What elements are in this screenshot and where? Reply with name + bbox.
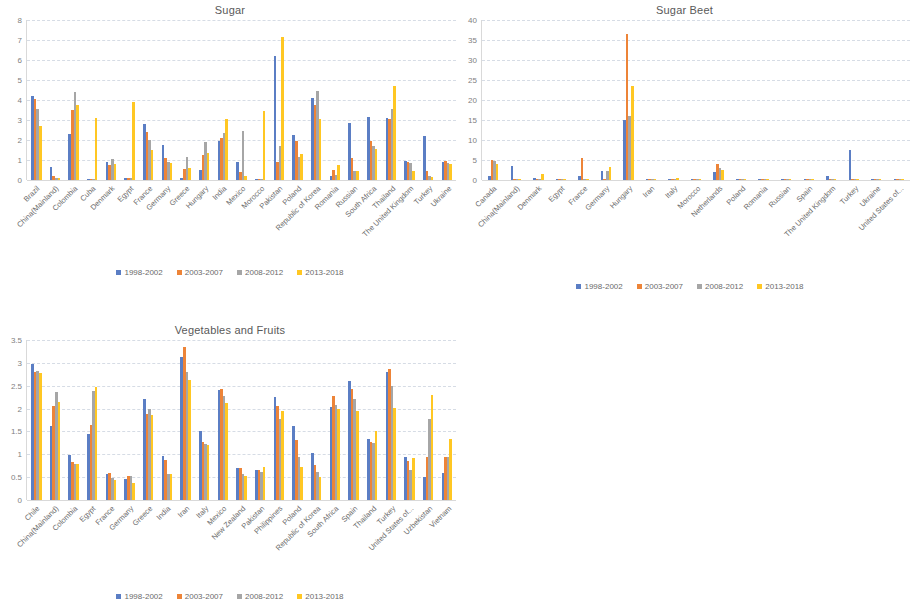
- bar-group: [550, 20, 573, 180]
- y-tick-label: 0.5: [11, 473, 22, 482]
- bar: [281, 37, 284, 180]
- bar-group: [437, 20, 456, 180]
- plot-area-vegetables-and-fruits: 00.511.522.533.5: [0, 340, 460, 500]
- legend-swatch-icon: [237, 594, 242, 599]
- bar-group: [102, 20, 121, 180]
- bar-group: [120, 340, 139, 500]
- bar: [563, 179, 566, 180]
- bar-group: [214, 340, 233, 500]
- bar: [449, 439, 452, 500]
- bar: [375, 149, 378, 180]
- bar: [76, 105, 79, 180]
- legend-item[interactable]: 1998-2002: [116, 268, 162, 277]
- bar: [699, 179, 702, 180]
- bar: [393, 408, 396, 500]
- bar-group: [270, 340, 289, 500]
- y-axis-sugar-beet: 0510152025303540: [455, 20, 481, 180]
- bar-group: [158, 20, 177, 180]
- bar: [170, 163, 173, 180]
- bar: [744, 179, 747, 180]
- bar-group: [27, 20, 46, 180]
- legend-label: 2008-2012: [245, 268, 283, 277]
- bar-group: [307, 20, 326, 180]
- bar: [319, 477, 322, 500]
- bar-group: [400, 20, 419, 180]
- bar: [58, 178, 61, 180]
- bar-group: [46, 340, 65, 500]
- y-tick-label: 5: [18, 76, 22, 85]
- bar: [132, 102, 135, 180]
- legend-item[interactable]: 2013-2018: [757, 282, 803, 291]
- legend-swatch-icon: [177, 270, 182, 275]
- bar-group: [64, 340, 83, 500]
- bar-group: [251, 20, 270, 180]
- y-tick-label: 1: [18, 450, 22, 459]
- y-tick-label: 1: [18, 156, 22, 165]
- bar-group: [307, 340, 326, 500]
- x-axis-labels-sugar-beet: CanadaChina(Mainland)DenmarkEgyptFranceG…: [455, 184, 914, 264]
- bar: [244, 476, 247, 500]
- bar: [337, 165, 340, 180]
- bar: [114, 164, 117, 180]
- legend-item[interactable]: 1998-2002: [576, 282, 622, 291]
- legend-item[interactable]: 2003-2007: [177, 268, 223, 277]
- bar-group: [27, 340, 46, 500]
- bar-group: [505, 20, 528, 180]
- legend-label: 2008-2012: [245, 592, 283, 601]
- legend-swatch-icon: [116, 270, 121, 275]
- legend-swatch-icon: [297, 270, 302, 275]
- bar: [151, 150, 154, 180]
- bar: [518, 179, 521, 180]
- legend-item[interactable]: 1998-2002: [116, 592, 162, 601]
- bar-group: [888, 20, 911, 180]
- bar-group: [139, 20, 158, 180]
- chart-title-sugar: Sugar: [0, 2, 460, 18]
- bar-group: [419, 20, 438, 180]
- plot-area-sugar-beet: 0510152025303540: [455, 20, 914, 180]
- y-tick-label: 35: [468, 36, 477, 45]
- bar-group: [797, 20, 820, 180]
- bar: [375, 431, 378, 500]
- legend-item[interactable]: 2008-2012: [237, 268, 283, 277]
- chart-title-vegetables-and-fruits: Vegetables and Fruits: [0, 322, 460, 338]
- bar-series-container: [27, 340, 456, 500]
- bar: [39, 126, 42, 180]
- bar-group: [232, 340, 251, 500]
- bar-group: [572, 20, 595, 180]
- bar: [581, 158, 584, 180]
- bar-group: [83, 340, 102, 500]
- y-tick-label: 1.5: [11, 427, 22, 436]
- y-tick-label: 4: [18, 96, 22, 105]
- bar-group: [214, 20, 233, 180]
- legend-swatch-icon: [697, 284, 702, 289]
- bar-group: [843, 20, 866, 180]
- bar: [901, 179, 904, 180]
- x-axis-labels-vegetables-and-fruits: ChileChina(Mainland)ColombiaEgyptFranceG…: [0, 504, 460, 584]
- bar-group: [46, 20, 65, 180]
- legend-item[interactable]: 2013-2018: [297, 268, 343, 277]
- bar: [225, 119, 228, 180]
- y-tick-label: 30: [468, 56, 477, 65]
- bar-group: [381, 20, 400, 180]
- plot-area-sugar: 012345678: [0, 20, 460, 180]
- bar: [856, 179, 859, 180]
- bar-group: [158, 340, 177, 500]
- y-tick-label: 10: [468, 136, 477, 145]
- legend-item[interactable]: 2003-2007: [637, 282, 683, 291]
- legend-item[interactable]: 2003-2007: [177, 592, 223, 601]
- bar: [151, 415, 154, 500]
- bar: [631, 86, 634, 180]
- bar-group: [595, 20, 618, 180]
- legend-item[interactable]: 2008-2012: [697, 282, 743, 291]
- legend-item[interactable]: 2013-2018: [297, 592, 343, 601]
- bar-group: [617, 20, 640, 180]
- legend-item[interactable]: 2008-2012: [237, 592, 283, 601]
- bar: [263, 111, 266, 180]
- y-tick-label: 25: [468, 76, 477, 85]
- bar: [431, 177, 434, 180]
- bar-group: [381, 340, 400, 500]
- legend-label: 2013-2018: [765, 282, 803, 291]
- bar: [76, 464, 79, 500]
- legend-swatch-icon: [116, 594, 121, 599]
- y-tick-label: 3: [18, 358, 22, 367]
